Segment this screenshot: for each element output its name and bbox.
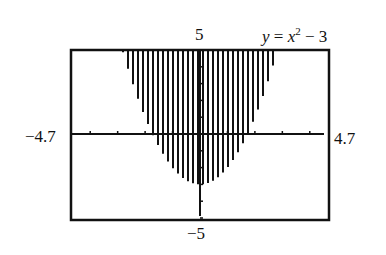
eq-y: y xyxy=(262,27,270,46)
eq-equals: = xyxy=(270,27,288,46)
eq-rest: − 3 xyxy=(301,27,328,46)
ymin-label: −5 xyxy=(187,225,205,242)
xmax-label: 4.7 xyxy=(334,130,355,147)
graph-figure xyxy=(0,0,386,255)
xmin-label: −4.7 xyxy=(25,128,56,145)
shaded-region xyxy=(123,50,273,184)
equation-label: y = x2 − 3 xyxy=(262,26,327,45)
ymax-label: 5 xyxy=(195,26,204,43)
